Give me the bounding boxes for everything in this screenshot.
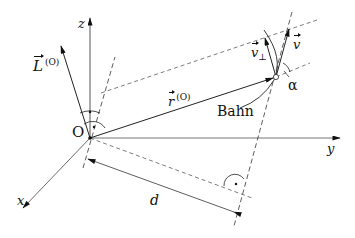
angular-momentum-symbol: L — [33, 59, 43, 74]
angular-momentum-diagram — [0, 0, 355, 238]
velocity-perpendicular-subscript: ⊥ — [258, 52, 266, 62]
origin-label: O — [72, 125, 84, 140]
velocity-vector — [276, 29, 289, 77]
particle — [273, 74, 278, 79]
trajectory-label: Bahn — [217, 104, 254, 118]
x-axis-label: x — [17, 194, 24, 207]
right-angle-dot-right — [235, 183, 237, 185]
velocity-perpendicular-label: v⊥ — [251, 46, 267, 62]
right-angle-arc-right — [224, 174, 244, 186]
angle-alpha-label: α — [288, 78, 297, 92]
angle-alpha-arc — [283, 63, 290, 72]
y-axis-label: y — [327, 142, 334, 155]
velocity-perpendicular-symbol: v — [251, 46, 258, 59]
position-vector-label: r(O) — [168, 93, 191, 108]
angular-momentum-label: L(O) — [33, 58, 59, 74]
dashed-parallel-through-particle — [276, 63, 310, 77]
velocity-symbol: v — [293, 38, 300, 51]
distance-label: d — [150, 193, 159, 207]
dashed-line-through-particle — [234, 12, 292, 226]
position-symbol: r — [168, 95, 174, 108]
velocity-label: v — [293, 38, 300, 51]
right-angle-dot-upper — [89, 111, 91, 113]
x-axis — [23, 138, 90, 208]
z-axis-label: z — [78, 17, 85, 30]
origin-point — [88, 136, 92, 140]
right-angle-dot-lower — [93, 126, 95, 128]
position-superscript: (O) — [176, 92, 190, 102]
angular-momentum-superscript: (O) — [45, 57, 59, 67]
distance-arrow — [88, 159, 234, 212]
